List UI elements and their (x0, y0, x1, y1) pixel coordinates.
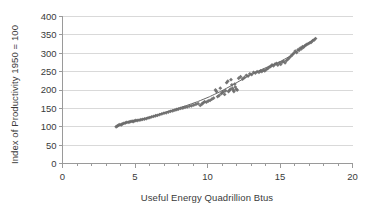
svg-text:350: 350 (41, 29, 57, 40)
svg-text:150: 150 (41, 103, 57, 114)
gridlines-group (63, 17, 353, 164)
svg-text:20: 20 (347, 171, 358, 182)
svg-text:300: 300 (41, 48, 57, 59)
y-tick-labels: 050100150200250300350400 (41, 11, 57, 169)
svg-text:400: 400 (41, 11, 57, 22)
svg-text:10: 10 (202, 171, 213, 182)
svg-text:200: 200 (41, 84, 57, 95)
trend-line (116, 38, 315, 126)
svg-text:15: 15 (275, 171, 286, 182)
svg-text:5: 5 (132, 171, 137, 182)
scatter-plot: 050100150200250300350400 05101520 (0, 0, 378, 213)
y-axis-title: Index of Productivity 1950 = 100 (9, 20, 20, 170)
svg-text:50: 50 (46, 140, 57, 151)
chart-container: 050100150200250300350400 05101520 Index … (0, 0, 378, 213)
svg-text:0: 0 (60, 171, 65, 182)
data-points-group (114, 37, 317, 129)
x-axis-title: Useful Energy Quadrillion Btus (62, 192, 352, 203)
svg-text:100: 100 (41, 121, 57, 132)
svg-text:250: 250 (41, 66, 57, 77)
svg-text:0: 0 (51, 158, 56, 169)
x-tick-labels: 05101520 (60, 171, 358, 182)
